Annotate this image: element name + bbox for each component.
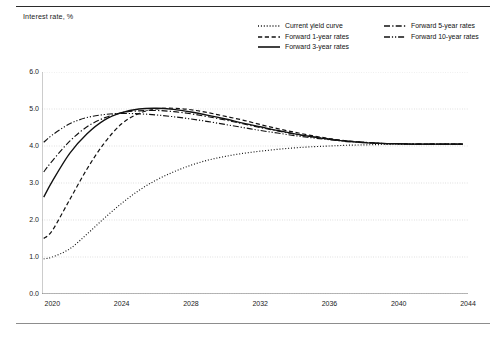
- y-tick-label: 3.0: [5, 179, 39, 186]
- axis-tick-labels: 0.01.02.03.04.05.06.02020202420282032203…: [0, 0, 494, 337]
- y-tick-label: 1.0: [5, 253, 39, 260]
- y-tick-label: 6.0: [5, 68, 39, 75]
- x-tick-label: 2020: [32, 300, 72, 307]
- x-tick-label: 2040: [379, 300, 419, 307]
- y-tick-label: 4.0: [5, 142, 39, 149]
- x-tick-label: 2032: [240, 300, 280, 307]
- y-tick-label: 0.0: [5, 290, 39, 297]
- x-tick-label: 2044: [448, 300, 488, 307]
- x-tick-label: 2024: [102, 300, 142, 307]
- y-tick-label: 2.0: [5, 216, 39, 223]
- y-tick-label: 5.0: [5, 105, 39, 112]
- x-tick-label: 2028: [171, 300, 211, 307]
- x-tick-label: 2036: [309, 300, 349, 307]
- chart-figure: Interest rate, % Current yield curveForw…: [0, 0, 494, 337]
